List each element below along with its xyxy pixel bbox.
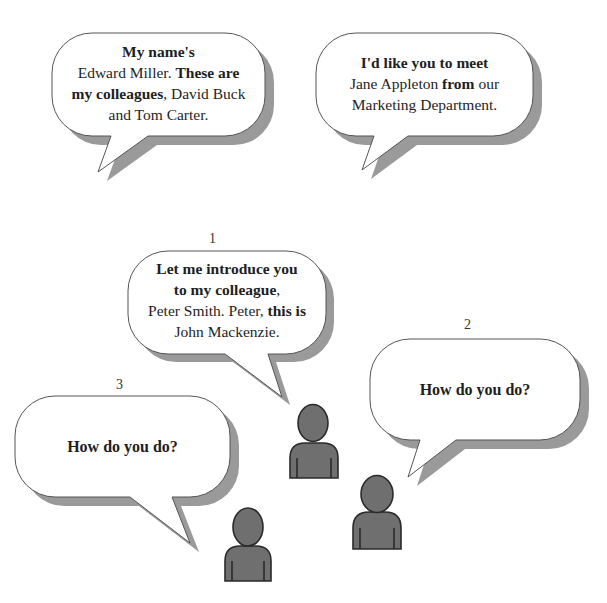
bubble-text-3: How do you do? <box>15 436 230 457</box>
text-line: to my colleague, <box>128 279 326 300</box>
bubble-text-2: How do you do? <box>370 379 580 400</box>
text-line: I'd like you to meet <box>316 52 533 73</box>
person-icon <box>225 508 271 581</box>
bubble-text-top-left: My name's Edward Miller. These are my co… <box>52 41 265 125</box>
bubble-number-label: 1 <box>209 231 216 247</box>
speech-bubble-2 <box>370 339 580 477</box>
bubble-text-top-right: I'd like you to meet Jane Appleton from … <box>316 52 533 115</box>
bubble-number-label: 2 <box>464 317 471 333</box>
text-line: my colleagues, David Buck <box>52 83 265 104</box>
bubble-number-label: 3 <box>116 377 123 393</box>
person-icon <box>290 405 338 479</box>
text-line: Peter Smith. Peter, this is <box>128 300 326 321</box>
bubble-text-1: Let me introduce you to my colleague, Pe… <box>128 258 326 342</box>
text-line: Let me introduce you <box>128 258 326 279</box>
text-line: My name's <box>52 41 265 62</box>
person-icon <box>353 476 401 550</box>
text-line: Marketing Department. <box>316 94 533 115</box>
text-line: John Mackenzie. <box>128 321 326 342</box>
speech-bubble-3 <box>15 396 230 543</box>
text-line: Jane Appleton from our <box>316 73 533 94</box>
text-line: Edward Miller. These are <box>52 62 265 83</box>
text-line: and Tom Carter. <box>52 104 265 125</box>
